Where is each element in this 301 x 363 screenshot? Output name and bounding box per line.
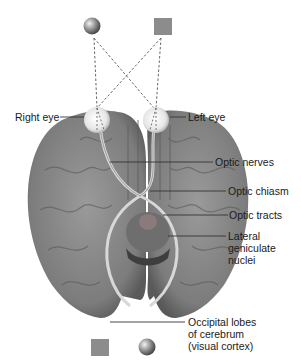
label-right-eye: Right eye — [15, 111, 59, 123]
top-sphere-icon — [84, 18, 101, 35]
bottom-square-icon — [91, 339, 109, 356]
label-optic-chiasm: Optic chiasm — [228, 185, 289, 197]
label-left-eye: Left eye — [188, 111, 225, 123]
label-occipital-lobes: Occipital lobes of cerebrum (visual cort… — [188, 316, 256, 352]
bottom-sphere-icon — [139, 339, 156, 356]
label-optic-nerves: Optic nerves — [215, 156, 274, 168]
brain-illustration — [0, 0, 301, 363]
label-optic-tracts: Optic tracts — [229, 209, 282, 221]
top-square-icon — [154, 18, 172, 35]
visual-pathway-diagram: Right eye Left eye Optic nerves Optic ch… — [0, 0, 301, 363]
label-lgn: Lateral geniculate nuclei — [228, 230, 276, 266]
